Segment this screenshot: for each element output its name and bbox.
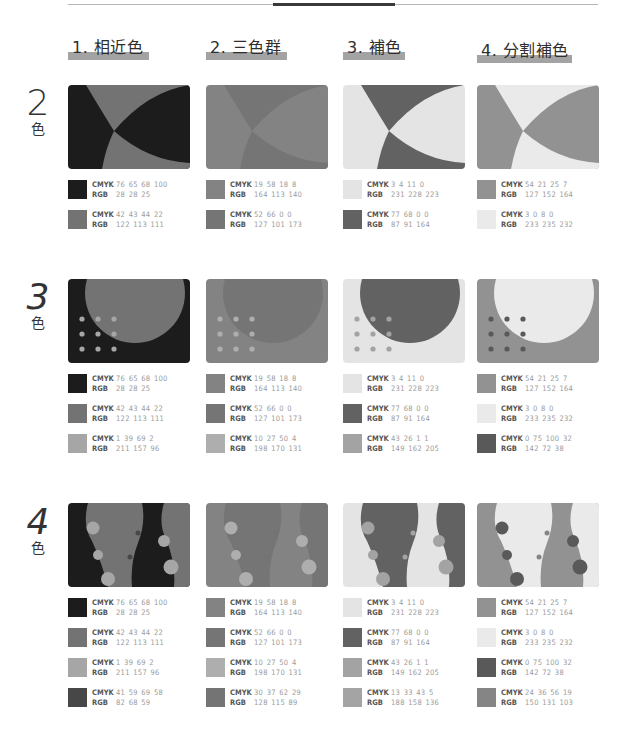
rgb-line: RGB164 113 140 (230, 608, 302, 618)
cmyk-value: 77 68 0 0 (391, 210, 429, 219)
rgb-value: 87 91 164 (391, 414, 430, 423)
color-values: CMYK3 0 8 0RGB233 235 232 (501, 210, 573, 229)
cmyk-line: CMYK52 66 0 0 (230, 404, 302, 414)
cmyk-value: 43 26 1 1 (391, 434, 429, 443)
cmyk-value: 54 21 25 7 (525, 374, 567, 383)
rgb-line: RGB127 101 173 (230, 414, 302, 424)
rgb-value: 233 235 232 (525, 638, 573, 647)
rgb-line: RGB122 113 111 (92, 638, 164, 648)
cmyk-line: CMYK19 58 18 8 (230, 374, 302, 384)
pattern-illustration (206, 85, 328, 169)
cmyk-value: 3 0 8 0 (525, 404, 554, 413)
cmyk-value: 10 27 50 4 (254, 658, 296, 667)
cmyk-line: CMYK10 27 50 4 (230, 658, 302, 668)
color-swatch (343, 434, 362, 453)
color-swatch (477, 404, 496, 423)
color-values: CMYK30 37 62 29RGB128 115 89 (230, 688, 301, 707)
color-values: CMYK42 43 44 22RGB122 113 111 (92, 210, 164, 229)
pattern-illustration (477, 279, 599, 363)
palette-preview-analogous-4 (68, 503, 190, 587)
rgb-label: RGB (92, 414, 116, 424)
cmyk-line: CMYK1 39 69 2 (92, 658, 160, 668)
color-swatch-entry: CMYK13 33 43 5RGB188 158 136 (343, 688, 468, 708)
cmyk-label: CMYK (230, 434, 254, 444)
color-swatch-entry: CMYK19 58 18 8RGB164 113 140 (206, 374, 331, 394)
color-values: CMYK1 39 69 2RGB211 157 96 (92, 658, 160, 677)
rgb-value: 149 162 205 (391, 444, 439, 453)
color-count-number: 3 (22, 280, 54, 314)
color-count-number: 2 (22, 86, 54, 120)
color-swatch (343, 180, 362, 199)
color-swatch (343, 404, 362, 423)
color-swatch-entry: CMYK3 4 11 0RGB231 228 223 (343, 180, 468, 200)
rgb-label: RGB (92, 668, 116, 678)
color-values: CMYK3 4 11 0RGB231 228 223 (367, 180, 439, 199)
row-label-2-colors: 2色 (22, 86, 54, 138)
color-swatch-entry: CMYK41 59 69 58RGB82 68 59 (68, 688, 193, 708)
column-header-triad: 2. 三色群 (206, 36, 287, 60)
cmyk-label: CMYK (367, 598, 391, 608)
color-swatch-entry: CMYK77 68 0 0RGB87 91 164 (343, 404, 468, 424)
cmyk-label: CMYK (92, 374, 116, 384)
cmyk-value: 3 0 8 0 (525, 210, 554, 219)
rgb-label: RGB (92, 698, 116, 708)
cmyk-label: CMYK (501, 434, 525, 444)
color-swatch (477, 180, 496, 199)
rgb-value: 127 152 164 (525, 608, 573, 617)
cmyk-line: CMYK30 37 62 29 (230, 688, 301, 698)
rgb-label: RGB (92, 444, 116, 454)
rgb-line: RGB82 68 59 (92, 698, 163, 708)
rgb-line: RGB231 228 223 (367, 190, 439, 200)
color-values: CMYK77 68 0 0RGB87 91 164 (367, 628, 430, 647)
color-swatch-entry: CMYK24 36 56 19RGB150 131 103 (477, 688, 602, 708)
rgb-value: 28 28 25 (116, 608, 150, 617)
palette-preview-split_complementary-4 (477, 503, 599, 587)
color-swatch (343, 658, 362, 677)
cmyk-label: CMYK (367, 374, 391, 384)
color-values: CMYK3 4 11 0RGB231 228 223 (367, 374, 439, 393)
rgb-line: RGB188 158 136 (367, 698, 439, 708)
color-swatch-entry: CMYK76 65 68 100RGB28 28 25 (68, 374, 193, 394)
cmyk-value: 77 68 0 0 (391, 628, 429, 637)
column-header-split_complementary: 4. 分割補色 (477, 39, 572, 63)
cmyk-line: CMYK10 27 50 4 (230, 434, 302, 444)
palette-preview-split_complementary-3 (477, 279, 599, 363)
color-swatch (68, 628, 87, 647)
rgb-label: RGB (230, 220, 254, 230)
rgb-label: RGB (92, 608, 116, 618)
row-label-3-colors: 3色 (22, 280, 54, 332)
pattern-illustration (343, 85, 465, 169)
cmyk-label: CMYK (92, 658, 116, 668)
cmyk-label: CMYK (501, 628, 525, 638)
color-values: CMYK77 68 0 0RGB87 91 164 (367, 404, 430, 423)
rgb-value: 149 162 205 (391, 668, 439, 677)
palette-preview-analogous-3 (68, 279, 190, 363)
cmyk-line: CMYK0 75 100 32 (501, 434, 572, 444)
rgb-label: RGB (367, 444, 391, 454)
cmyk-line: CMYK42 43 44 22 (92, 628, 164, 638)
color-values: CMYK54 21 25 7RGB127 152 164 (501, 374, 573, 393)
rgb-value: 233 235 232 (525, 414, 573, 423)
rgb-line: RGB122 113 111 (92, 414, 164, 424)
color-swatch (68, 658, 87, 677)
color-values: CMYK52 66 0 0RGB127 101 173 (230, 210, 302, 229)
cmyk-line: CMYK1 39 69 2 (92, 434, 160, 444)
rgb-value: 127 101 173 (254, 220, 302, 229)
color-values: CMYK19 58 18 8RGB164 113 140 (230, 180, 302, 199)
cmyk-label: CMYK (230, 374, 254, 384)
cmyk-value: 76 65 68 100 (116, 374, 168, 383)
rgb-line: RGB231 228 223 (367, 608, 439, 618)
cmyk-label: CMYK (92, 210, 116, 220)
cmyk-label: CMYK (230, 210, 254, 220)
color-values: CMYK1 39 69 2RGB211 157 96 (92, 434, 160, 453)
cmyk-label: CMYK (367, 180, 391, 190)
rgb-value: 87 91 164 (391, 638, 430, 647)
rgb-value: 231 228 223 (391, 190, 439, 199)
color-swatch (206, 628, 225, 647)
rgb-label: RGB (501, 190, 525, 200)
palette-preview-complementary-2 (343, 85, 465, 169)
cmyk-value: 13 33 43 5 (391, 688, 433, 697)
color-swatch (206, 434, 225, 453)
palette-preview-triad-3 (206, 279, 328, 363)
cmyk-line: CMYK54 21 25 7 (501, 374, 573, 384)
